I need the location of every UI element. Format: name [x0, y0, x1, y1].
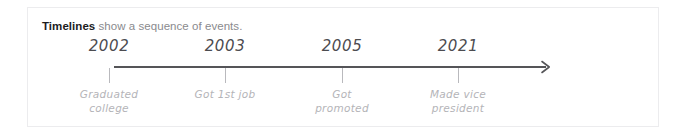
year-label: 2005 [282, 37, 402, 55]
event-label-line2: college [44, 101, 174, 115]
event-label-line1: Graduated [80, 88, 139, 100]
year-label: 2003 [165, 37, 285, 55]
event-label-line1: Got [332, 88, 352, 100]
timeline-axis-line [114, 66, 546, 68]
event-label: Made vice president [393, 87, 523, 115]
screenshot-canvas: Timelines show a sequence of events. 200… [0, 0, 693, 138]
event-label-line2: president [393, 101, 523, 115]
timeline-card: Timelines show a sequence of events. 200… [27, 7, 659, 127]
event-label: Graduated college [44, 87, 174, 115]
timeline-tick [225, 68, 226, 83]
timeline-graphic: 2002 2003 2005 2021 Graduated college Go… [28, 8, 660, 128]
event-label-line1: Got 1st job [195, 88, 256, 100]
event-label-line2: promoted [277, 101, 407, 115]
arrow-right-icon [540, 60, 554, 74]
event-label: Got promoted [277, 87, 407, 115]
event-label-line1: Made vice [430, 88, 486, 100]
year-label: 2002 [49, 37, 169, 55]
year-label: 2021 [398, 37, 518, 55]
event-label: Got 1st job [160, 87, 290, 101]
timeline-tick [109, 68, 110, 83]
timeline-tick [342, 68, 343, 83]
timeline-tick [458, 68, 459, 83]
